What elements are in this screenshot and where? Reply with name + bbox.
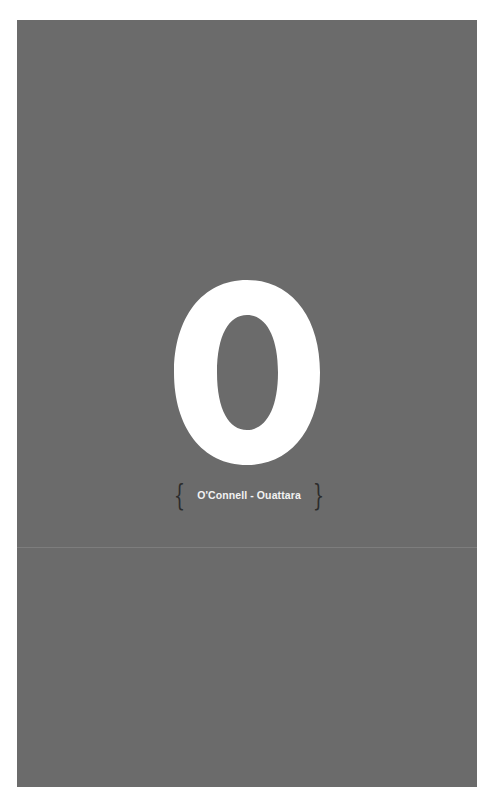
range-label: O'Connell - Ouattara bbox=[197, 489, 301, 501]
name-range: { O'Connell - Ouattara } bbox=[179, 480, 319, 510]
close-brace: } bbox=[313, 480, 324, 510]
open-brace: { bbox=[174, 480, 185, 510]
letter-o-glyph bbox=[174, 280, 320, 465]
directory-section-page: { O'Connell - Ouattara } bbox=[17, 20, 477, 787]
fold-line bbox=[17, 547, 477, 548]
section-letter bbox=[174, 280, 320, 465]
